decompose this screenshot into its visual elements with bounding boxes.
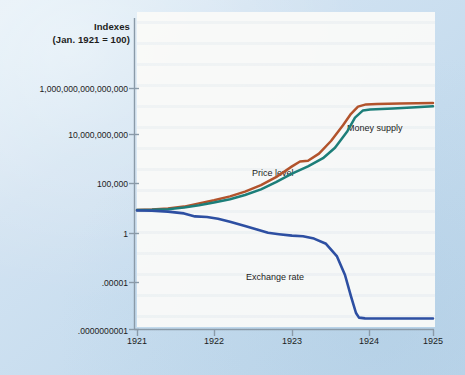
x-tick-marks [138,330,434,337]
series-line-price-level [137,103,433,210]
series-line-money-supply [137,106,433,210]
series-line-exchange-rate [137,211,433,319]
chart-svg-canvas [0,0,465,375]
hyperinflation-chart-figure: Indexes (Jan. 1921 = 100) 1,000,000,000,… [0,0,465,375]
